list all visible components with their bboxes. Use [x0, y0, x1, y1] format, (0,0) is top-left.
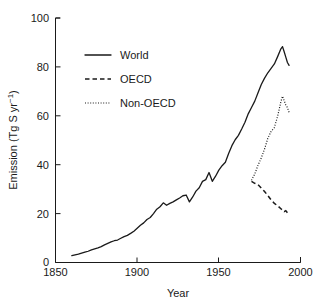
- x-tick-label-1900: 1900: [125, 266, 149, 278]
- chart-figure: 0 20 40 60 80 100 1850 1900 1950 2000 Ye…: [0, 0, 327, 306]
- emission-line-chart: 0 20 40 60 80 100 1850 1900 1950 2000 Ye…: [0, 0, 327, 306]
- legend-label-non-oecd: Non-OECD: [120, 97, 176, 109]
- y-axis-title-main: Emission (Tg S yr: [7, 103, 19, 190]
- series-line-non-oecd: [252, 96, 290, 180]
- series-line-world: [72, 47, 289, 256]
- y-tick-label-100: 100: [31, 12, 49, 24]
- series-line-oecd: [252, 181, 290, 214]
- y-axis-title-group: Emission (Tg S yr−1): [6, 90, 19, 190]
- y-tick-label-60: 60: [37, 110, 49, 122]
- y-tick-marks: [56, 18, 61, 263]
- x-axis-title: Year: [167, 287, 190, 299]
- y-axis-title-close: ): [7, 90, 19, 94]
- x-tick-marks: [56, 258, 301, 263]
- y-tick-label-40: 40: [37, 159, 49, 171]
- x-tick-labels: 1850 1900 1950 2000: [43, 266, 312, 278]
- y-axis-title: Emission (Tg S yr−1): [6, 90, 19, 190]
- x-tick-label-2000: 2000: [288, 266, 312, 278]
- x-tick-label-1950: 1950: [206, 266, 230, 278]
- x-tick-label-1850: 1850: [43, 266, 67, 278]
- legend-label-world: World: [120, 49, 149, 61]
- y-tick-label-80: 80: [37, 61, 49, 73]
- y-tick-label-20: 20: [37, 208, 49, 220]
- data-series-group: [72, 47, 289, 256]
- y-tick-labels: 0 20 40 60 80 100: [31, 12, 49, 268]
- legend-label-oecd: OECD: [120, 73, 152, 85]
- legend: World OECD Non-OECD: [85, 49, 176, 109]
